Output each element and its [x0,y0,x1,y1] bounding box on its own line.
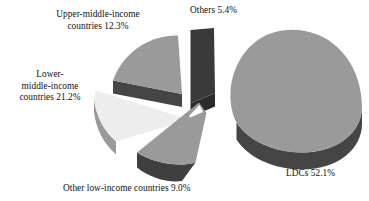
pie-slice-others [191,28,216,117]
pie-slice-ldcs-top [230,30,362,153]
pie-slice-upper-middle-income [113,35,182,107]
slice-label-lower-middle-income-line3: countries 21.2% [19,92,80,102]
pie-chart-figure: Upper-middle-income countries 12.3% Lowe… [0,0,369,201]
slice-label-lower-middle-income: Lower- middle-income countries 21.2% [4,69,96,104]
pie-slice-ldcs [230,30,362,170]
slice-label-upper-middle-income-line1: Upper-middle-income [56,9,139,19]
slice-label-ldcs: LDCs 52.1% [286,168,335,180]
slice-label-upper-middle-income-line2: countries 12.3% [67,21,128,31]
slice-label-upper-middle-income: Upper-middle-income countries 12.3% [33,9,163,32]
slice-label-other-low-income: Other low-income countries 9.0% [63,183,191,195]
slice-label-lower-middle-income-line2: middle-income [22,81,79,91]
slice-label-lower-middle-income-line1: Lower- [36,69,63,79]
slice-label-others: Others 5.4% [190,5,237,17]
pie-slice-others-top [191,28,216,104]
